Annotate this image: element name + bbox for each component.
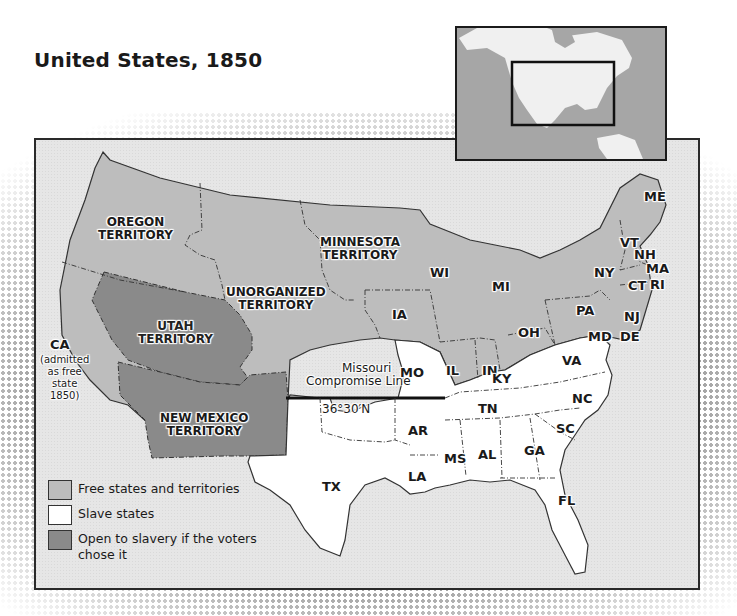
inset-map-svg bbox=[457, 28, 665, 159]
label-oh: OH bbox=[518, 326, 540, 340]
label-fl: FL bbox=[558, 494, 575, 508]
map-title: United States, 1850 bbox=[34, 48, 262, 72]
map-legend: Free states and territories Slave states… bbox=[48, 480, 278, 568]
label-ia: IA bbox=[392, 308, 407, 322]
label-tx: TX bbox=[322, 480, 341, 494]
label-me: ME bbox=[644, 190, 666, 204]
label-ga: GA bbox=[524, 444, 545, 458]
legend-item-open: Open to slavery if the voters chose it bbox=[48, 530, 278, 563]
label-utah-territory: UTAHTERRITORY bbox=[138, 320, 213, 345]
label-ms: MS bbox=[444, 452, 466, 466]
label-ca-note: (admitted as free state 1850) bbox=[40, 354, 89, 402]
label-minnesota-territory: MINNESOTATERRITORY bbox=[320, 236, 400, 261]
label-de: DE bbox=[620, 330, 640, 344]
label-ca: CA bbox=[50, 338, 70, 352]
label-nj: NJ bbox=[624, 310, 640, 324]
legend-item-free: Free states and territories bbox=[48, 480, 278, 500]
legend-swatch-open bbox=[48, 530, 72, 550]
label-al: AL bbox=[478, 448, 496, 462]
label-unorganized-territory: UNORGANIZEDTERRITORY bbox=[226, 286, 326, 311]
label-sc: SC bbox=[556, 422, 575, 436]
label-oregon-territory: OREGONTERRITORY bbox=[98, 216, 173, 241]
label-mi: MI bbox=[492, 280, 510, 294]
label-il: IL bbox=[446, 364, 459, 378]
legend-swatch-slave bbox=[48, 505, 72, 525]
label-latitude: 36°30′N bbox=[322, 403, 370, 416]
label-ri: RI bbox=[650, 278, 665, 292]
legend-item-slave: Slave states bbox=[48, 505, 278, 525]
label-ct: CT bbox=[628, 279, 646, 293]
label-pa: PA bbox=[576, 304, 594, 318]
label-ma: MA bbox=[646, 262, 669, 276]
label-nc: NC bbox=[572, 392, 592, 406]
label-mo: MO bbox=[400, 366, 424, 380]
label-ky: KY bbox=[492, 372, 512, 386]
label-va: VA bbox=[562, 354, 581, 368]
label-ar: AR bbox=[408, 424, 428, 438]
label-wi: WI bbox=[430, 266, 449, 280]
label-compromise-line: Missouri Compromise Line bbox=[306, 362, 411, 387]
label-ny: NY bbox=[594, 266, 614, 280]
inset-locator-map bbox=[455, 26, 667, 161]
label-nh: NH bbox=[634, 248, 656, 262]
label-la: LA bbox=[408, 470, 426, 484]
legend-swatch-free bbox=[48, 480, 72, 500]
label-md: MD bbox=[588, 330, 612, 344]
label-tn: TN bbox=[478, 402, 498, 416]
label-new-mexico-territory: NEW MEXICOTERRITORY bbox=[160, 412, 249, 437]
